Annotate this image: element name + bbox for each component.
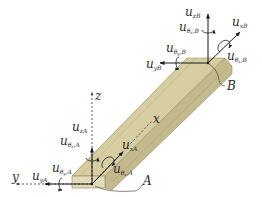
- beam-element-diagram: z y x uzA uθz,A uyA uθy,A uxA uθx,A A uz…: [0, 0, 262, 197]
- u-yA-label: uyA: [32, 169, 48, 184]
- node-b-label: B: [226, 79, 236, 93]
- u-xB-label: uxB: [232, 15, 248, 29]
- u-thyA-label: uθy,A: [52, 161, 73, 176]
- node-b-point: [207, 62, 209, 64]
- y-axis-label: y: [11, 170, 19, 184]
- u-thzA-label: uθz,A: [60, 134, 80, 149]
- x-axis-label: x: [153, 112, 160, 126]
- u-thzB-label: uθz,B: [179, 20, 199, 35]
- u-thyB-label: uθy,B: [166, 41, 187, 56]
- beam: [72, 58, 232, 190]
- u-yB-label: uyB: [146, 57, 162, 72]
- u-zB-label: uzB: [185, 5, 201, 19]
- z-axis-label: z: [94, 89, 102, 103]
- u-thxB-label: uθx,B: [227, 49, 248, 64]
- beam-top-face-2: [72, 58, 225, 176]
- beam-end-face: [72, 176, 105, 188]
- node-a-label: A: [142, 174, 152, 188]
- node-a-point: [91, 183, 93, 185]
- u-zA-label: uzA: [72, 120, 88, 134]
